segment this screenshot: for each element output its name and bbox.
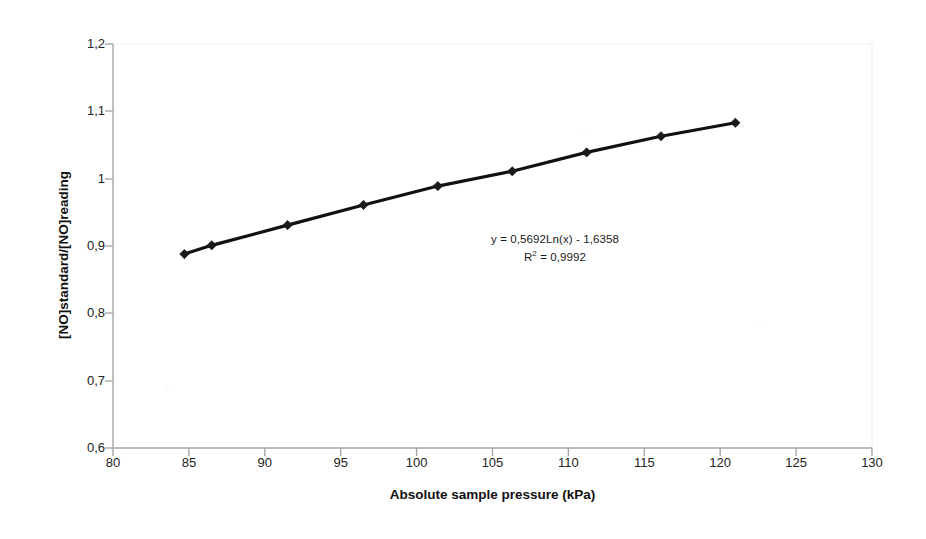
data-point-marker xyxy=(359,200,368,209)
data-point-marker xyxy=(283,221,292,230)
data-point-marker xyxy=(582,148,591,157)
x-tick-label: 105 xyxy=(471,456,515,469)
x-tick-label: 95 xyxy=(319,456,363,469)
r-squared-value: = 0,9992 xyxy=(537,251,586,263)
x-tick-label: 80 xyxy=(91,456,135,469)
data-point-marker xyxy=(207,241,216,250)
trendline-equation-annotation: y = 0,5692Ln(x) - 1,6358 R2 = 0,9992 xyxy=(420,231,690,265)
data-point-marker xyxy=(433,181,442,190)
x-tick-label: 120 xyxy=(698,456,742,469)
x-tick-label: 115 xyxy=(622,456,666,469)
x-tick-label: 100 xyxy=(395,456,439,469)
trendline-equation-text: y = 0,5692Ln(x) - 1,6358 xyxy=(420,231,690,248)
r-squared-text: R2 = 0,9992 xyxy=(420,248,690,266)
data-point-marker xyxy=(508,167,517,176)
y-axis-title: [NO]standard/[NO]reading xyxy=(46,40,80,470)
x-tick-label: 125 xyxy=(774,456,818,469)
x-axis-tick-labels: 80 85 90 95 100 105 110 115 120 125 130 xyxy=(0,456,926,476)
x-tick-label: 90 xyxy=(243,456,287,469)
data-point-marker xyxy=(731,118,740,127)
x-tick-label: 85 xyxy=(167,456,211,469)
x-tick-label: 110 xyxy=(546,456,590,469)
data-point-marker xyxy=(180,249,189,258)
y-axis-ticks xyxy=(105,44,113,448)
chart-figure: 1,2 1,1 1 0,9 0,8 0,7 0,6 80 85 90 95 10… xyxy=(0,0,926,539)
x-axis-title: Absolute sample pressure (kPa) xyxy=(113,487,872,502)
data-point-marker xyxy=(656,132,665,141)
x-tick-label: 130 xyxy=(850,456,894,469)
